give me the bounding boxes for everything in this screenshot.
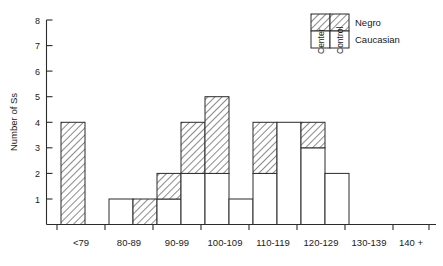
x-category-label-4: 110-119: [256, 237, 289, 248]
y-tick-label-8: 8: [35, 16, 40, 26]
bar-center-110-119-negro: [253, 122, 277, 173]
legend-column-label-control: Control: [335, 26, 345, 54]
y-tick-label-2: 2: [35, 169, 40, 179]
x-axis: <79 80-89 90-99 100-109 110-119 120-129 …: [47, 225, 437, 249]
bar-center-100-109-caucasian: [205, 173, 229, 224]
x-category-label-2: 90-99: [165, 237, 189, 248]
y-tick-label-1: 1: [35, 195, 40, 205]
bar-center-90-99-caucasian: [157, 199, 181, 225]
x-category-label-3: 100-109: [208, 237, 243, 248]
bar-group-120-129: [301, 122, 349, 224]
y-axis-label: Number of Ss: [8, 93, 19, 151]
bar-control-110-119-caucasian: [277, 122, 301, 224]
histogram-svg: 8 7 6 5 4 3 2 1 Number of Ss <79 80-89 9…: [0, 0, 443, 266]
bar-group-90-99: [157, 122, 205, 224]
bar-center-80-89-caucasian: [109, 199, 133, 225]
y-axis: 8 7 6 5 4 3 2 1 Number of Ss: [8, 16, 53, 225]
legend-label-negro: Negro: [355, 17, 381, 28]
bar-center-120-129-caucasian: [301, 148, 325, 225]
bar-center-100-109-negro: [205, 97, 229, 174]
x-category-label-5: 120-129: [304, 237, 339, 248]
legend-column-label-center: Center: [316, 28, 326, 54]
bar-control-120-129-caucasian: [325, 173, 349, 224]
legend-swatch-center-negro: [311, 14, 330, 31]
bar-group-80-89: [109, 199, 157, 225]
x-category-label-7: 140 +: [399, 237, 423, 248]
bar-center-90-99-negro: [157, 173, 181, 199]
bar-center-lt79-negro: [61, 122, 85, 224]
legend: Negro Caucasian Center Control: [311, 14, 400, 54]
bar-center-120-129-negro: [301, 122, 325, 148]
y-tick-label-3: 3: [35, 143, 40, 153]
y-tick-label-7: 7: [35, 41, 40, 51]
bar-control-80-89-negro: [133, 199, 157, 225]
bar-group-lt79: [61, 122, 85, 224]
y-tick-label-6: 6: [35, 67, 40, 77]
bar-control-90-99-negro: [181, 122, 205, 173]
x-category-label-1: 80-89: [117, 237, 141, 248]
bar-group-100-109: [205, 97, 253, 225]
x-category-label-0: <79: [73, 237, 89, 248]
bar-center-110-119-caucasian: [253, 173, 277, 224]
bar-control-100-109-caucasian: [229, 199, 253, 225]
bar-group-110-119: [253, 122, 301, 224]
legend-label-caucasian: Caucasian: [355, 34, 400, 45]
x-category-label-6: 130-139: [352, 237, 387, 248]
chart-figure: 8 7 6 5 4 3 2 1 Number of Ss <79 80-89 9…: [0, 0, 443, 266]
bar-control-90-99-caucasian: [181, 173, 205, 224]
y-tick-label-4: 4: [35, 118, 40, 128]
y-tick-label-5: 5: [35, 92, 40, 102]
